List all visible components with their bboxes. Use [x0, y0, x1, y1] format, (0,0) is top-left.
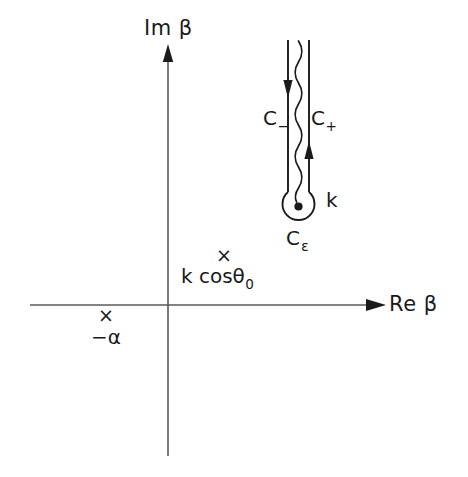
- contour-diagram-figure: Im β Re β C− C+ Cε k × k cosθ0 × −α: [0, 0, 468, 477]
- imaginary-axis-label: Im β: [144, 18, 193, 39]
- real-axis: [30, 299, 386, 311]
- real-axis-label: Re β: [389, 294, 438, 315]
- c-plus-direction-arrowhead: [304, 141, 313, 159]
- contour-label-c-plus-base: C: [311, 106, 325, 130]
- contour-label-c-epsilon-subscript: ε: [300, 238, 309, 254]
- real-axis-arrowhead: [366, 299, 386, 311]
- contour-label-c-minus-subscript: −: [277, 118, 289, 134]
- pole-label-minus-alpha: −α: [91, 327, 121, 347]
- pole-marker-minus-alpha: ×: [98, 306, 114, 325]
- pole-marker-k-cos-theta0: ×: [216, 246, 232, 265]
- pole-label-k-cos-theta0-base: k cosθ: [181, 264, 245, 288]
- contour-label-c-epsilon: Cε: [286, 228, 309, 254]
- c-minus-direction-arrowhead: [283, 80, 292, 98]
- contour-label-c-plus: C+: [311, 108, 337, 133]
- contour-label-c-minus: C−: [263, 108, 289, 133]
- branch-cut-wavy-line: [295, 41, 302, 202]
- contour-label-c-minus-base: C: [263, 106, 277, 130]
- contour-label-c-plus-subscript: +: [325, 118, 337, 134]
- imaginary-axis: [163, 44, 173, 456]
- pole-label-k-cos-theta0: k cosθ0: [181, 266, 254, 291]
- pole-label-k-cos-theta0-subscript: 0: [245, 276, 254, 292]
- branch-point-label-k: k: [326, 190, 338, 210]
- branch-point-dot-k: [294, 202, 302, 210]
- contour-diagram-canvas: [0, 0, 468, 477]
- imaginary-axis-arrowhead: [163, 44, 173, 62]
- contour-label-c-epsilon-base: C: [286, 226, 300, 250]
